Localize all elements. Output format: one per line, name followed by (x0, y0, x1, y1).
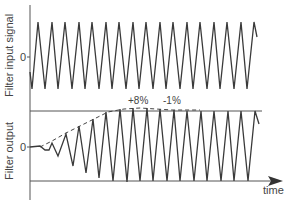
output-signal-wave (30, 108, 259, 182)
input-ylabel: Filter input signal (3, 14, 15, 97)
input-zero-label: 0 (20, 51, 26, 63)
output-ylabel: Filter output (3, 122, 15, 180)
filter-response-diagram: Filter input signal 0 Filter output 0 +8… (0, 0, 291, 208)
input-signal-wave (30, 22, 257, 89)
overshoot-annotation: +8% (128, 95, 148, 106)
output-zero-label: 0 (20, 141, 26, 153)
time-axis-label: time (263, 184, 284, 196)
undershoot-annotation: -1% (163, 95, 181, 106)
